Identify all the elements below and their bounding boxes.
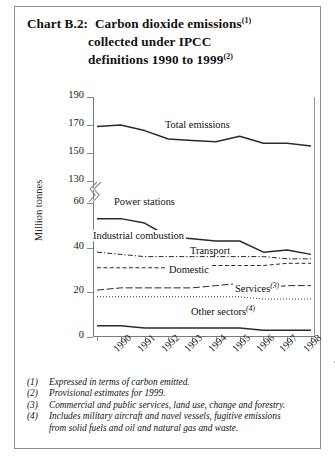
footnote-text-continued: from solid fuels and oil and natural gas… <box>27 423 315 434</box>
footnote-marker: (2) <box>27 388 49 399</box>
footnote-text: Includes military aircraft and navel ves… <box>49 411 315 422</box>
y-axis-title: Million tonnes <box>33 166 44 256</box>
chart-title-line-1: Chart B.2: Carbon dioxide emissions(1) <box>27 15 312 33</box>
title-footnote-ref-1: (1) <box>242 16 252 25</box>
chart-area: Million tonnes 1901701501306040200 <box>15 87 320 369</box>
series-label-total-emissions: Total emissions <box>163 119 232 130</box>
footnote-marker: (1) <box>27 377 49 388</box>
footnotes: (1)Expressed in terms of carbon emitted.… <box>27 377 315 434</box>
y-tick-label: 150 <box>68 145 84 156</box>
series-line-other-sectors <box>97 326 311 330</box>
chart-title-text-3: definitions 1990 to 1999 <box>88 52 223 67</box>
footnote-marker: (4) <box>27 411 49 422</box>
series-lines <box>93 97 315 337</box>
y-tick-mark <box>87 337 93 338</box>
y-tick-label: 130 <box>68 173 84 184</box>
series-line-services <box>97 297 311 299</box>
series-label-transport: Transport <box>188 245 232 256</box>
chart-title-text-1: Carbon dioxide emissions <box>95 16 242 31</box>
series-label-power-stations: Power stations <box>112 196 177 207</box>
x-tick-mark-0 <box>97 337 98 341</box>
x-axis-label-1999-prov: 1999 prov <box>331 332 335 369</box>
y-tick-label: 20 <box>74 284 85 295</box>
y-tick-label: 190 <box>68 89 84 100</box>
chart-title-line-2: collected under IPCC <box>27 33 312 51</box>
footnote-3: (3)Commercial and public services, land … <box>27 400 315 411</box>
y-tick-label: 0 <box>79 329 84 340</box>
chart-number-label: Chart B.2: <box>27 16 88 31</box>
figure-frame: Chart B.2: Carbon dioxide emissions(1) c… <box>14 6 321 449</box>
series-label-industrial-combustion: Industrial combustion <box>91 230 186 241</box>
chart-title: Chart B.2: Carbon dioxide emissions(1) c… <box>27 15 312 69</box>
footnote-text: Commercial and public services, land use… <box>49 400 315 411</box>
title-footnote-ref-2: (2) <box>223 52 233 61</box>
footnote-4: (4)Includes military aircraft and navel … <box>27 411 315 422</box>
chart-page: Chart B.2: Carbon dioxide emissions(1) c… <box>0 0 335 466</box>
footnote-text: Provisional estimates for 1999. <box>49 388 315 399</box>
y-tick-label: 60 <box>74 195 85 206</box>
plot-area: 1901701501306040200 Total emissions Powe… <box>93 97 315 337</box>
footnote-1: (1)Expressed in terms of carbon emitted. <box>27 377 315 388</box>
series-label-domestic: Domestic <box>167 264 211 275</box>
series-label-other-sectors: Other sectors(4) <box>189 306 257 317</box>
y-tick-label: 40 <box>74 240 85 251</box>
y-tick-label: 170 <box>68 117 84 128</box>
chart-title-line-3: definitions 1990 to 1999(2) <box>27 51 312 69</box>
series-label-services: Services(3) <box>233 283 281 294</box>
footnote-text: Expressed in terms of carbon emitted. <box>49 377 315 388</box>
footnote-2: (2)Provisional estimates for 1999. <box>27 388 315 399</box>
footnote-marker: (3) <box>27 400 49 411</box>
